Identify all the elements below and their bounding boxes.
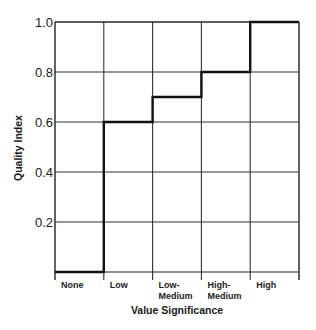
quality-index-step-line [55, 22, 299, 272]
plot-frame [55, 22, 299, 280]
step-chart: 0.20.40.60.81.0 NoneLowLow-MediumHigh-Me… [0, 0, 316, 330]
x-tick-label: High [256, 280, 276, 290]
y-axis-ticks: 0.20.40.60.81.0 [35, 15, 53, 230]
x-axis-ticks: NoneLowLow-MediumHigh-MediumHigh [61, 280, 276, 301]
y-tick-label: 0.4 [35, 165, 53, 180]
y-tick-label: 0.2 [35, 215, 53, 230]
grid-lines [55, 22, 299, 280]
y-tick-label: 1.0 [35, 15, 53, 30]
x-tick-label: Medium [207, 291, 241, 301]
x-tick-label: High- [207, 280, 230, 290]
x-tick-label: None [61, 280, 84, 290]
y-tick-label: 0.6 [35, 115, 53, 130]
y-axis-label: Quality Index [12, 115, 24, 181]
x-tick-label: Low [110, 280, 129, 290]
x-tick-label: Low- [159, 280, 180, 290]
y-tick-label: 0.8 [35, 65, 53, 80]
x-axis-label: Value Significance [131, 304, 223, 316]
x-tick-label: Medium [159, 291, 193, 301]
